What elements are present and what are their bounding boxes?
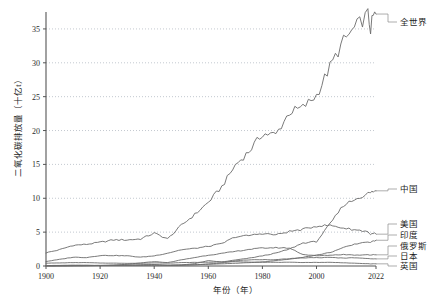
series-label-4: 俄罗斯 [400,241,427,251]
x-tick-label: 2000 [308,272,324,281]
y-axis-title: 二氧化碳排放量（十亿t） [11,46,23,206]
y-tick-label: 0 [36,262,40,271]
series-label-3: 印度 [400,230,418,240]
series-label-5: 日本 [400,251,418,261]
series-line-0 [46,9,376,253]
y-tick-label: 35 [32,25,40,34]
y-tick-label: 20 [32,127,40,136]
leader-line-1 [376,189,397,191]
leader-line-2 [376,224,397,234]
x-tick-label: 2022 [368,272,384,281]
series-line-2 [46,225,376,262]
x-tick-label: 1920 [92,272,108,281]
y-tick-label: 10 [32,194,40,203]
y-tick-label: 5 [36,228,40,237]
leader-line-3 [376,235,397,240]
co2-emissions-line-chart: 二氧化碳排放量（十亿t） 051015202530351900192019401… [0,0,443,301]
chart-plot-area: 0510152025303519001920194019601980200020… [0,0,443,301]
leader-line-0 [376,14,397,22]
series-label-0: 全世界 [400,17,427,27]
leader-line-5 [376,256,397,259]
x-tick-label: 1980 [254,272,270,281]
leader-line-6 [376,264,397,266]
x-tick-label: 1900 [38,272,54,281]
x-axis-title-wrap: 年份（年） [0,283,443,295]
x-tick-label: 1960 [200,272,216,281]
series-label-2: 美国 [400,219,418,229]
y-tick-label: 15 [32,160,40,169]
leader-line-4 [376,246,397,255]
series-label-1: 中国 [400,184,418,194]
x-tick-label: 1940 [146,272,162,281]
y-tick-label: 25 [32,93,40,102]
x-axis-title: 年份（年） [213,283,258,295]
y-tick-label: 30 [32,59,40,68]
series-label-6: 英国 [400,261,418,271]
